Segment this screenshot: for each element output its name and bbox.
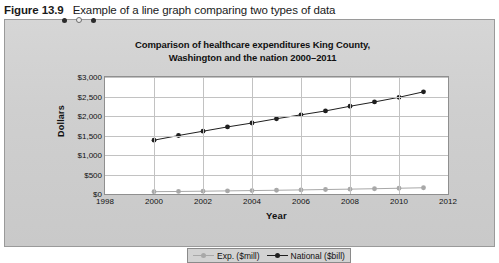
panel-dot-2-icon xyxy=(76,17,82,23)
series-data-point xyxy=(225,125,230,130)
gridline-vertical xyxy=(252,77,253,194)
gridline-horizontal xyxy=(105,175,448,176)
panel-dot-1-icon xyxy=(62,18,67,23)
x-axis-tick-label: 2006 xyxy=(292,197,310,206)
legend-marker-icon xyxy=(267,252,288,260)
series-data-point xyxy=(274,116,279,121)
series-line xyxy=(154,188,424,192)
series-data-point xyxy=(274,188,279,193)
chart-title-line-1: Comparison of healthcare expenditures Ki… xyxy=(65,39,440,52)
gridline-horizontal xyxy=(105,77,448,78)
legend-label: National ($bill) xyxy=(291,251,345,261)
y-axis-tick-labels: $0$500$1,000$1,500$2,000$2,500$3,000 xyxy=(52,76,102,195)
x-axis-tick-label: 2012 xyxy=(439,197,457,206)
y-axis-tick-label: $0 xyxy=(56,190,102,199)
legend-item: National ($bill) xyxy=(267,251,345,261)
legend-item: Exp. ($mill) xyxy=(193,251,260,261)
gridline-vertical xyxy=(399,77,400,194)
x-axis-tick-label: 2002 xyxy=(194,197,212,206)
figure-number: Figure 13.9 xyxy=(4,4,64,16)
x-axis-tick-label: 2000 xyxy=(145,197,163,206)
gridline-horizontal xyxy=(105,155,448,156)
y-axis-tick-label: $500 xyxy=(56,170,102,179)
series-data-point xyxy=(225,188,230,193)
gridline-vertical xyxy=(301,77,302,194)
y-axis-tick-label: $1,000 xyxy=(56,151,102,160)
x-axis-tick-labels: 19982000200220042006200820102012 xyxy=(104,197,449,209)
series-data-point xyxy=(372,100,377,105)
gridline-vertical xyxy=(350,77,351,194)
x-axis-tick-label: 2004 xyxy=(243,197,261,206)
panel-dot-3-icon xyxy=(91,18,96,23)
chart-title: Comparison of healthcare expenditures Ki… xyxy=(65,39,440,64)
y-axis-tick-label: $1,500 xyxy=(56,131,102,140)
series-data-point xyxy=(421,89,426,94)
legend-marker-icon xyxy=(193,252,214,260)
gridline-vertical xyxy=(203,77,204,194)
y-axis-tick-label: $3,000 xyxy=(56,73,102,82)
y-axis-tick-label: $2,500 xyxy=(56,92,102,101)
gridline-horizontal xyxy=(105,97,448,98)
legend-label: Exp. ($mill) xyxy=(217,251,260,261)
gridline-horizontal xyxy=(105,116,448,117)
y-axis-tick-label: $2,000 xyxy=(56,112,102,121)
plot-area xyxy=(104,76,449,195)
x-axis-tick-label: 1998 xyxy=(96,197,114,206)
panel-dots-decoration xyxy=(62,17,96,24)
series-data-point xyxy=(421,185,426,190)
x-axis-tick-label: 2008 xyxy=(341,197,359,206)
chart-legend: Exp. ($mill)National ($bill) xyxy=(187,248,351,263)
figure-panel: Comparison of healthcare expenditures Ki… xyxy=(4,19,495,247)
x-axis-title: Year xyxy=(104,210,449,221)
series-data-point xyxy=(323,109,328,114)
x-axis-tick-label: 2010 xyxy=(390,197,408,206)
chart-title-line-2: Washington and the nation 2000–2011 xyxy=(65,52,440,65)
gridline-vertical xyxy=(154,77,155,194)
series-data-point xyxy=(176,189,181,194)
gridline-horizontal xyxy=(105,136,448,137)
series-data-point xyxy=(323,187,328,192)
series-data-point xyxy=(372,186,377,191)
figure-caption-text: Example of a line graph comparing two ty… xyxy=(73,4,336,16)
